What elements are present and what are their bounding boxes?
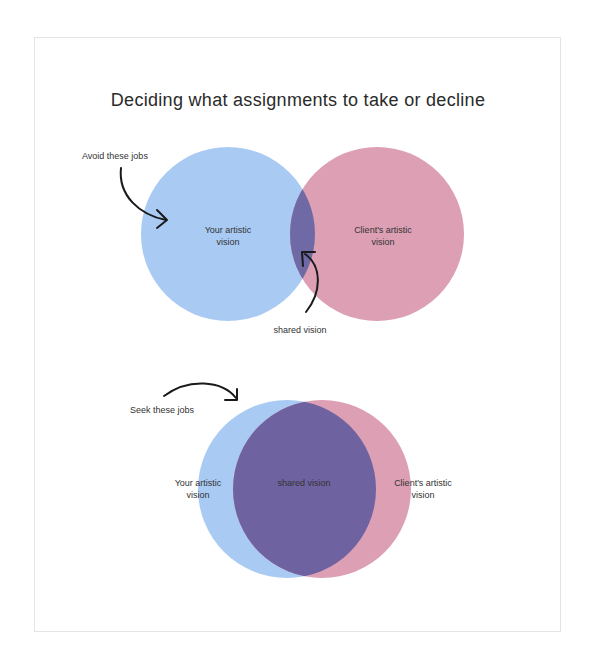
your-vision-label-bottom: Your artistic vision (158, 477, 238, 501)
your-vision-label-line1: Your artistic (158, 477, 238, 489)
client-vision-label-line2: vision (338, 236, 428, 248)
seek-arrow-icon (164, 383, 236, 398)
client-vision-label-line1: Client's artistic (338, 224, 428, 236)
your-vision-label-line2: vision (158, 489, 238, 501)
your-vision-label-line2: vision (188, 236, 268, 248)
shared-vision-label-top: shared vision (260, 324, 340, 336)
your-vision-label-top: Your artistic vision (188, 224, 268, 248)
client-vision-label-top: Client's artistic vision (338, 224, 428, 248)
client-vision-label-line2: vision (378, 489, 468, 501)
client-vision-label-bottom: Client's artistic vision (378, 477, 468, 501)
your-vision-label-line1: Your artistic (188, 224, 268, 236)
avoid-jobs-annotation: Avoid these jobs (82, 150, 148, 162)
shared-vision-label-bottom: shared vision (264, 477, 344, 489)
seek-jobs-annotation: Seek these jobs (130, 404, 194, 416)
client-vision-label-line1: Client's artistic (378, 477, 468, 489)
